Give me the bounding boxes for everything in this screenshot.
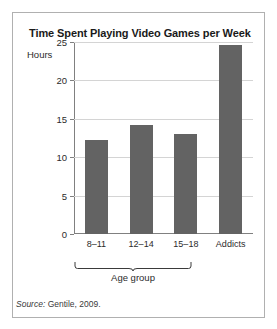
y-axis-tick-label: 25: [56, 37, 67, 48]
bar: [85, 140, 108, 234]
x-axis-tick-label: 15–18: [173, 239, 198, 249]
age-group-label: Age group: [74, 272, 192, 283]
plot-area: 0510152025 8–1112–1415–18Addicts: [74, 42, 253, 234]
age-group-brace-icon: [74, 262, 192, 271]
source-note: Source: Gentile, 2009.: [16, 299, 101, 309]
bar: [174, 134, 197, 234]
y-axis-tick-label: 10: [56, 152, 67, 163]
bar: [219, 45, 242, 234]
y-axis-tick-label: 5: [62, 190, 67, 201]
x-axis-tick-label: 12–14: [129, 239, 154, 249]
gridline: [74, 42, 253, 43]
x-axis-tick-label: 8–11: [87, 239, 106, 249]
source-prefix: Source:: [16, 299, 45, 309]
y-axis-tick-label: 20: [56, 75, 67, 86]
y-axis-tick: [70, 157, 74, 158]
y-axis-tick: [70, 42, 74, 43]
y-axis-tick: [70, 80, 74, 81]
y-axis-tick: [70, 234, 74, 235]
y-axis-tick: [70, 119, 74, 120]
x-axis-tick-label: Addicts: [216, 239, 246, 249]
y-axis-tick: [70, 196, 74, 197]
bar: [130, 125, 153, 234]
y-axis-title: Hours: [27, 49, 52, 60]
source-citation: Gentile, 2009.: [45, 299, 100, 309]
y-axis-tick-label: 0: [62, 229, 67, 240]
y-axis-tick-label: 15: [56, 113, 67, 124]
